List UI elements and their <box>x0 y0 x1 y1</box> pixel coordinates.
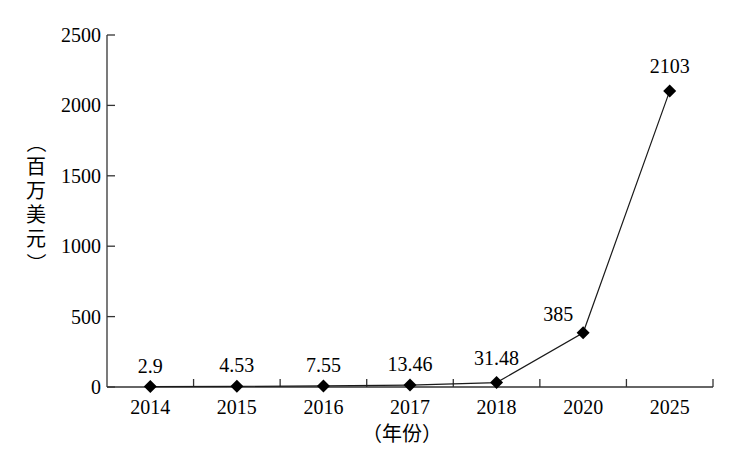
y-tick-label: 1500 <box>61 165 101 187</box>
line-chart: 05001000150020002500 2014201520162017201… <box>0 0 741 469</box>
series-line <box>150 91 669 387</box>
x-tick-label: 2020 <box>563 396 603 418</box>
x-tick-label: 2025 <box>650 396 690 418</box>
y-axis-title-char: （ <box>25 133 47 153</box>
diamond-marker <box>577 326 590 339</box>
x-tick-label: 2014 <box>130 396 170 418</box>
y-tick-label: 0 <box>91 376 101 398</box>
axes <box>107 35 713 387</box>
data-label: 7.55 <box>306 354 341 376</box>
data-series <box>144 84 676 393</box>
data-label: 13.46 <box>388 353 433 375</box>
diamond-marker <box>663 84 676 97</box>
y-axis-title-char: 百 <box>26 156 46 178</box>
data-label: 2.9 <box>138 355 163 377</box>
data-labels: 2.94.537.5513.4631.483852103 <box>138 55 690 377</box>
diamond-marker <box>317 379 330 392</box>
y-tick-label: 2500 <box>61 24 101 46</box>
y-tick-label: 1000 <box>61 235 101 257</box>
diamond-marker <box>230 380 243 393</box>
data-label: 4.53 <box>219 354 254 376</box>
x-tick-label: 2016 <box>303 396 343 418</box>
y-axis-title-char: 万 <box>26 180 46 202</box>
y-axis-title-char: 美 <box>26 204 46 226</box>
diamond-marker <box>404 379 417 392</box>
y-tick-label: 2000 <box>61 94 101 116</box>
y-axis-title-char: ） <box>25 253 47 273</box>
y-axis-title-char: 元 <box>26 228 46 250</box>
y-tick-label: 500 <box>71 306 101 328</box>
x-tick-label: 2017 <box>390 396 430 418</box>
data-label: 385 <box>543 303 573 325</box>
x-tick-label: 2018 <box>477 396 517 418</box>
diamond-marker <box>144 380 157 393</box>
x-tick-label: 2015 <box>217 396 257 418</box>
x-axis-title: （年份） <box>362 423 442 445</box>
data-label: 31.48 <box>474 347 519 369</box>
data-label: 2103 <box>650 55 690 77</box>
